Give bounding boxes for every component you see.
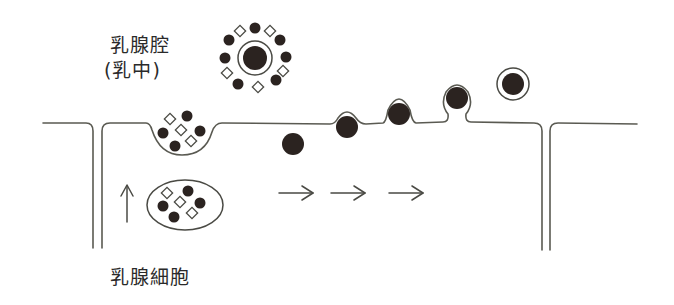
arrow-up-icon [121, 185, 133, 222]
lumen-label: 乳腺腔 [110, 30, 170, 57]
lipid-droplet-budding-1 [336, 116, 358, 138]
lipid-droplet-budding-2 [388, 103, 410, 125]
secretion-diagram [0, 0, 674, 305]
mammary-cell-label: 乳腺細胞 [110, 262, 190, 289]
milk-label: (乳中) [104, 55, 161, 82]
exocytosis-cup-contents [158, 111, 206, 152]
lipid-droplet-pinching [446, 87, 468, 109]
globule-in-milk [220, 23, 292, 93]
milk-fat-globule-released [497, 68, 529, 100]
arrow-right-icon [279, 186, 313, 200]
arrow-right-icon [389, 186, 423, 200]
lipid-droplet-cytoplasm [282, 133, 304, 155]
arrow-right-icon [331, 186, 365, 200]
apical-membrane [43, 85, 637, 250]
secretory-vesicle [147, 180, 223, 230]
